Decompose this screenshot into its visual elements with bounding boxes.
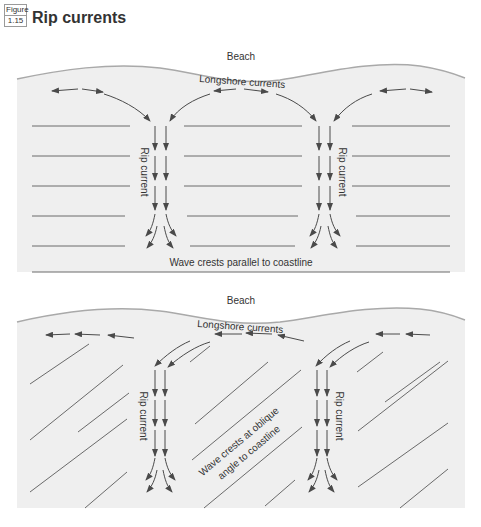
water-area: [17, 65, 465, 272]
beach-label: Beach: [227, 51, 255, 62]
panel-parallel: Beach Longshore currents: [17, 45, 465, 272]
rip-current-label-left: Rip current: [138, 392, 149, 441]
panel-oblique: Beach Longshore currents: [17, 290, 465, 508]
rip-current-label-right: Rip current: [334, 392, 345, 441]
rip-currents-diagram: Beach Longshore currents: [0, 0, 481, 527]
wave-crests-label: Wave crests parallel to coastline: [169, 257, 312, 268]
rip-current-label-left: Rip current: [139, 148, 150, 197]
rip-current-label-right: Rip current: [337, 148, 348, 197]
beach-label: Beach: [227, 295, 255, 306]
